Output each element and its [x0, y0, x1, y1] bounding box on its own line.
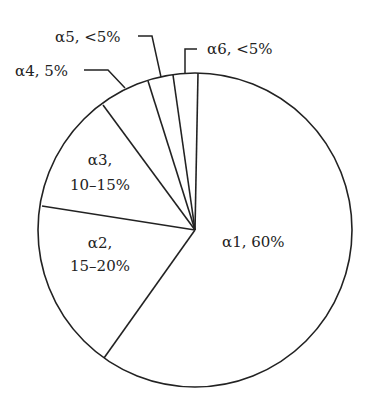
- label-a1: α1, 60%: [222, 233, 285, 251]
- label-a6: α6, <5%: [207, 40, 273, 58]
- leader-a4: [84, 70, 125, 88]
- leader-a6: [185, 49, 197, 74]
- label-a4: α4, 5%: [15, 62, 68, 80]
- label-a3-line1: α3,: [88, 151, 112, 169]
- pie-chart: α1, 60% α2, 15–20% α3, 10–15% α4, 5% α5,…: [0, 0, 367, 409]
- label-a5: α5, <5%: [55, 28, 121, 46]
- leader-a5: [138, 36, 161, 77]
- label-a2-line2: 15–20%: [70, 257, 130, 275]
- label-a2-line1: α2,: [88, 234, 112, 252]
- label-a3-line2: 10–15%: [70, 176, 130, 194]
